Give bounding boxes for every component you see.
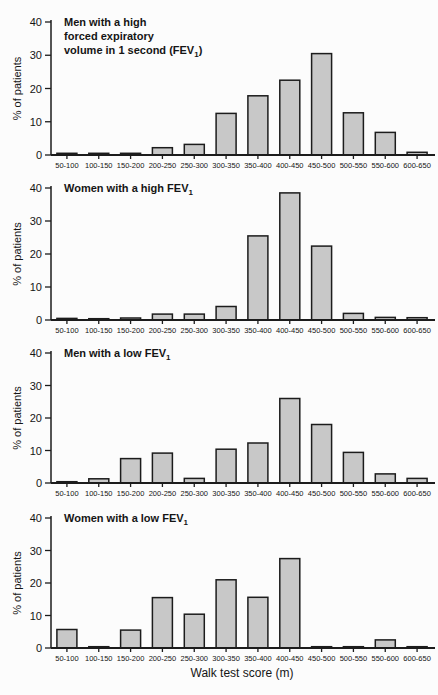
- y-axis: 010203040: [30, 347, 51, 489]
- x-tick-label: 300-350: [212, 161, 240, 170]
- x-tick-label: 250-300: [180, 654, 208, 663]
- chart-title-line: volume in 1 second (FEV1): [64, 44, 203, 59]
- bar: [248, 443, 268, 483]
- x-tick-label: 100-150: [85, 489, 113, 498]
- y-axis-label: % of patients: [11, 56, 23, 120]
- x-axis-label: Walk test score (m): [191, 666, 294, 680]
- x-tick-label: 500-550: [340, 161, 368, 170]
- x-tick-label: 400-450: [276, 654, 304, 663]
- bar: [248, 236, 268, 320]
- bars: [57, 399, 427, 484]
- x-axis: 50-100100-150150-200200-250250-300300-35…: [51, 648, 435, 663]
- y-axis-label: % of patients: [11, 222, 23, 286]
- chart-title: Women with a high FEV1​: [64, 182, 193, 197]
- chart-panel-1: 01020304050-100100-150150-200200-250250-…: [11, 16, 435, 170]
- bar: [312, 246, 332, 320]
- fev1-walk-test-histograms-figure: 01020304050-100100-150150-200200-250250-…: [0, 0, 438, 695]
- bar: [216, 307, 236, 321]
- x-tick-label: 200-250: [149, 489, 177, 498]
- x-tick-label: 450-500: [308, 654, 336, 663]
- x-tick-label: 100-150: [85, 161, 113, 170]
- bar: [375, 132, 395, 155]
- y-tick-label: 20: [30, 83, 42, 95]
- x-tick-label: 550-600: [371, 489, 399, 498]
- bar: [184, 144, 204, 155]
- y-tick-label: 0: [36, 477, 42, 489]
- bar: [152, 148, 172, 155]
- x-tick-label: 600-650: [403, 654, 431, 663]
- x-tick-label: 550-600: [371, 161, 399, 170]
- bar: [375, 640, 395, 648]
- x-tick-label: 300-350: [212, 326, 240, 335]
- x-tick-label: 350-400: [244, 654, 272, 663]
- bar: [280, 399, 300, 484]
- x-axis: 50-100100-150150-200200-250250-300300-35…: [51, 483, 435, 498]
- x-tick-label: 400-450: [276, 326, 304, 335]
- bar: [57, 630, 77, 649]
- x-tick-label: 450-500: [308, 161, 336, 170]
- bars: [57, 54, 427, 155]
- x-tick-label: 600-650: [403, 489, 431, 498]
- y-tick-label: 20: [30, 577, 42, 589]
- bar: [248, 597, 268, 648]
- x-tick-label: 600-650: [403, 161, 431, 170]
- y-axis: 010203040: [30, 16, 51, 161]
- chart-title-line: Women with a high FEV1​: [64, 182, 193, 197]
- y-tick-label: 0: [36, 642, 42, 654]
- y-tick-label: 30: [30, 215, 42, 227]
- x-tick-label: 450-500: [308, 489, 336, 498]
- y-tick-label: 30: [30, 545, 42, 557]
- bar: [343, 113, 363, 155]
- x-tick-label: 450-500: [308, 326, 336, 335]
- bar: [184, 614, 204, 648]
- x-tick-label: 200-250: [149, 161, 177, 170]
- x-tick-label: 400-450: [276, 161, 304, 170]
- x-tick-label: 300-350: [212, 654, 240, 663]
- x-tick-label: 500-550: [340, 489, 368, 498]
- bar: [248, 96, 268, 155]
- bar: [343, 452, 363, 483]
- bar: [343, 313, 363, 320]
- chart-panel-4: 01020304050-100100-150150-200200-250250-…: [11, 512, 435, 680]
- x-tick-label: 250-300: [180, 489, 208, 498]
- y-tick-label: 40: [30, 16, 42, 28]
- x-tick-label: 150-200: [117, 489, 145, 498]
- bar: [216, 113, 236, 155]
- bar: [312, 425, 332, 484]
- chart-title: Women with a low FEV1​: [64, 512, 189, 527]
- x-tick-label: 50-100: [55, 654, 78, 663]
- x-tick-label: 350-400: [244, 489, 272, 498]
- chart-panel-3: 01020304050-100100-150150-200200-250250-…: [11, 347, 435, 498]
- bar: [280, 193, 300, 320]
- x-tick-label: 550-600: [371, 326, 399, 335]
- y-tick-label: 30: [30, 49, 42, 61]
- y-tick-label: 0: [36, 149, 42, 161]
- chart-panel-2: 01020304050-100100-150150-200200-250250-…: [11, 182, 435, 335]
- y-tick-label: 0: [36, 314, 42, 326]
- x-tick-label: 150-200: [117, 654, 145, 663]
- x-tick-label: 500-550: [340, 654, 368, 663]
- chart-title: Men with a highforced expiratoryvolume i…: [64, 16, 203, 59]
- x-tick-label: 600-650: [403, 326, 431, 335]
- chart-title: Men with a low FEV1​: [64, 347, 171, 362]
- chart-title-line: Women with a low FEV1​: [64, 512, 189, 527]
- x-tick-label: 150-200: [117, 326, 145, 335]
- bars: [57, 559, 427, 649]
- y-tick-label: 10: [30, 116, 42, 128]
- bar: [375, 474, 395, 483]
- x-tick-label: 550-600: [371, 654, 399, 663]
- y-tick-label: 30: [30, 380, 42, 392]
- x-tick-label: 500-550: [340, 326, 368, 335]
- x-tick-label: 250-300: [180, 326, 208, 335]
- bar: [152, 453, 172, 483]
- bar: [280, 559, 300, 648]
- y-axis-label: % of patients: [11, 386, 23, 450]
- x-tick-label: 100-150: [85, 326, 113, 335]
- bar: [121, 630, 141, 648]
- y-axis: 010203040: [30, 182, 51, 326]
- x-tick-label: 300-350: [212, 489, 240, 498]
- x-tick-label: 200-250: [149, 654, 177, 663]
- y-tick-label: 40: [30, 347, 42, 359]
- bar: [152, 598, 172, 648]
- y-tick-label: 10: [30, 445, 42, 457]
